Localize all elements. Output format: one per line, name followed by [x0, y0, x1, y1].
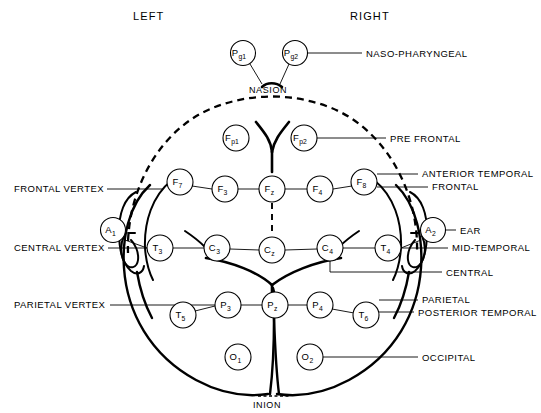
chain-p4-t6: [332, 309, 354, 313]
central-sulcus-right: [272, 258, 341, 285]
lateral-fissure-left: [185, 231, 205, 247]
electrode-t4[interactable]: T4: [375, 235, 401, 261]
chain-f4-f8: [333, 186, 352, 189]
callout-frontal-vertex: FRONTAL VERTEX: [14, 183, 104, 194]
callout-central: CENTRAL: [446, 267, 494, 278]
electrode-f4[interactable]: F4: [307, 176, 333, 202]
electrode-fp2[interactable]: Fp2: [291, 125, 317, 151]
electrode-t5[interactable]: T5: [170, 302, 196, 328]
callout-ear: EAR: [460, 225, 481, 236]
electrode-o1[interactable]: O1: [225, 344, 251, 370]
callout-occipital: OCCIPITAL: [422, 352, 476, 363]
callout-parietal: PARIETAL: [422, 294, 470, 305]
electrode-f8[interactable]: F8: [351, 169, 377, 195]
electrode-f3[interactable]: F3: [212, 176, 238, 202]
neck-line-right: [394, 272, 409, 318]
midline-pz-to-inion-right: [274, 318, 279, 394]
electrode-o2[interactable]: O2: [297, 344, 323, 370]
eeg-electrode-diagram: Pg1Pg2Fp1Fp2F7F3FzF4F8A1T3C3CzC4T4A2T5P3…: [0, 0, 541, 413]
chain-c3-cz: [230, 249, 259, 250]
diagram-canvas: Pg1Pg2Fp1Fp2F7F3FzF4F8A1T3C3CzC4T4A2T5P3…: [0, 0, 541, 413]
central-sulcus-left: [206, 258, 272, 285]
electrode-t3[interactable]: T3: [147, 235, 173, 261]
chain-t5-p3: [195, 306, 215, 311]
frontal-fissure-y: [256, 122, 272, 152]
electrode-c3[interactable]: C3: [204, 235, 230, 261]
callout-left-text-layer: FRONTAL VERTEXCENTRAL VERTEXPARIETAL VER…: [14, 183, 106, 310]
callout-frontal: FRONTAL: [432, 181, 479, 192]
electrode-pg2[interactable]: Pg2: [283, 41, 308, 66]
callout-posterior-temporal: POSTERIOR TEMPORAL: [418, 307, 537, 318]
electrode-a2[interactable]: A2: [421, 218, 446, 243]
header-left: LEFT: [133, 10, 164, 22]
header-right: RIGHT: [350, 10, 390, 22]
chain-pg1-nasion: [250, 64, 262, 84]
electrode-pg1[interactable]: Pg1: [231, 41, 256, 66]
midline-to-pz: [273, 288, 274, 292]
frontal-fissure-y-right: [272, 122, 289, 152]
callout-naso-pharyngeal: NASO-PHARYNGEAL: [366, 48, 468, 59]
temporal-contour-left: [145, 180, 172, 280]
landmark-inion: INION: [253, 400, 281, 410]
landmark-nasion: NASION: [249, 85, 287, 95]
electrode-cz[interactable]: Cz: [259, 237, 285, 263]
callout-mid-temporal: MID-TEMPORAL: [452, 242, 530, 253]
callout-pre-frontal: PRE FRONTAL: [390, 133, 461, 144]
chain-f7-f3: [192, 186, 212, 189]
electrode-p3[interactable]: P3: [215, 292, 241, 318]
chain-pg2-nasion: [280, 64, 289, 84]
electrode-t6[interactable]: T6: [353, 302, 379, 328]
electrode-a1[interactable]: A1: [101, 218, 126, 243]
electrode-pz[interactable]: Pz: [262, 292, 288, 318]
callout-right-text-layer: NASO-PHARYNGEALPRE FRONTALANTERIOR TEMPO…: [366, 48, 537, 363]
electrode-c4[interactable]: C4: [317, 235, 343, 261]
chain-c4-central-elbow: [330, 261, 442, 272]
electrode-p4[interactable]: P4: [307, 292, 333, 318]
chain-cz-c4: [285, 249, 317, 250]
callout-central-vertex: CENTRAL VERTEX: [14, 242, 105, 253]
temporal-contour-right: [374, 180, 401, 280]
neck-line-left: [137, 272, 152, 318]
electrode-f7[interactable]: F7: [167, 169, 193, 195]
callout-parietal-vertex: PARIETAL VERTEX: [14, 299, 106, 310]
electrode-fp1[interactable]: Fp1: [223, 125, 249, 151]
electrode-fz[interactable]: Fz: [259, 176, 285, 202]
callout-anterior-temporal: ANTERIOR TEMPORAL: [422, 168, 533, 179]
